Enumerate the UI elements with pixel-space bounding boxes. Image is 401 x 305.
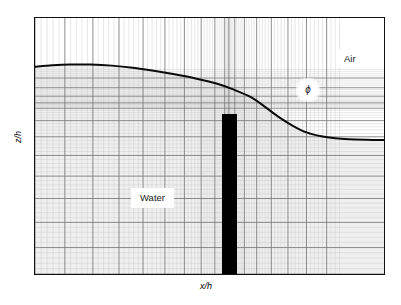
region-label-water: Water — [131, 188, 174, 208]
phi-annotation: ϕ — [296, 78, 320, 102]
x-axis-label: x/h — [176, 281, 236, 291]
figure-container: Air Water ϕ z/h x/h — [0, 0, 401, 305]
y-axis-label: z/h — [13, 117, 23, 157]
region-label-air: Air — [337, 50, 363, 68]
plot-frame: Air Water ϕ — [34, 17, 385, 275]
obstacle-plate — [222, 114, 237, 275]
free-surface-interface — [35, 18, 384, 274]
